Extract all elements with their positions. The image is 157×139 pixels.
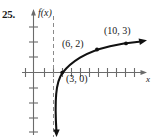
x-axis-label: x bbox=[146, 74, 150, 84]
curve-point-marker bbox=[95, 48, 99, 52]
figure-container: 25. bbox=[0, 0, 157, 139]
plot-canvas bbox=[0, 0, 157, 139]
point-label-3-0: (3, 0) bbox=[66, 73, 88, 84]
point-label-10-3: (10, 3) bbox=[104, 25, 131, 36]
point-label-6-2: (6, 2) bbox=[62, 38, 84, 49]
function-curve bbox=[53, 38, 147, 137]
curve-point-marker bbox=[60, 71, 64, 75]
y-axis-label: f(x) bbox=[38, 7, 52, 18]
curve-point-marker bbox=[124, 42, 128, 46]
